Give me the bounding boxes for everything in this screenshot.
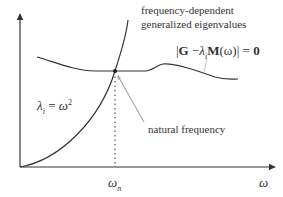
- eq-minus: −: [189, 43, 200, 58]
- omega-n-omega: ω: [108, 175, 117, 190]
- eq-M: M: [207, 43, 219, 58]
- parabola-sup: 2: [68, 98, 72, 107]
- eq-G: G: [179, 43, 189, 58]
- natural-frequency-label: natural frequency: [148, 124, 225, 135]
- parabola-eq: =: [45, 98, 59, 113]
- omega-n-tick-label: ωn: [108, 176, 121, 193]
- x-axis-label: ω: [259, 176, 268, 189]
- eq-bar-close: | =: [237, 43, 253, 58]
- title-label-line1: frequency-dependent: [141, 5, 234, 16]
- characteristic-equation-label: |G −λiM(ω)| = 0: [176, 44, 260, 61]
- natural-frequency-pointer: [118, 76, 144, 122]
- eq-arg: (ω): [219, 43, 236, 58]
- parabola-curve: [20, 20, 128, 167]
- omega-n-sub: n: [117, 184, 121, 193]
- title-label-line2: generalized eigenvalues: [141, 19, 246, 30]
- eq-zero: 0: [253, 43, 260, 58]
- intersection-point: [113, 69, 117, 73]
- parabola-label: λi = ω2: [37, 99, 72, 116]
- parabola-omega: ω: [59, 98, 68, 113]
